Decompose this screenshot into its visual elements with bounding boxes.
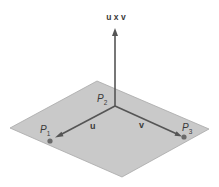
- label-u-cross-v: u x v: [106, 12, 126, 22]
- normal-arrowhead-icon: [112, 28, 118, 36]
- label-v: v: [139, 120, 144, 130]
- label-u: u: [90, 121, 96, 131]
- point-p1: [47, 138, 52, 143]
- cross-product-diagram: u x v u v P2 P1 P3: [0, 0, 219, 187]
- point-p3: [181, 134, 186, 139]
